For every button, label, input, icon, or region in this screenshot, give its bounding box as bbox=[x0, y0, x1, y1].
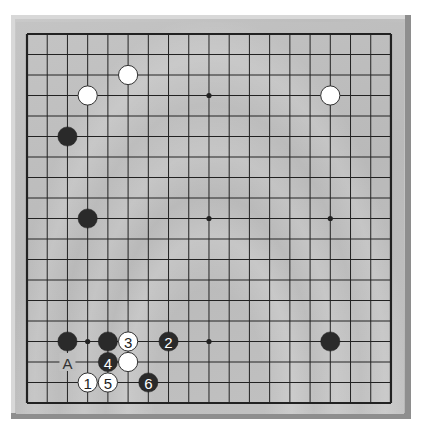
white-stone-move-3[interactable]: 3 bbox=[119, 332, 138, 351]
white-stone-move-5[interactable]: 5 bbox=[98, 373, 117, 392]
move-number-label: 3 bbox=[124, 334, 132, 351]
white-stone[interactable] bbox=[78, 86, 97, 105]
star-point bbox=[328, 216, 333, 221]
black-stone-move-6[interactable]: 6 bbox=[139, 373, 158, 392]
marker-label-a: A bbox=[62, 355, 72, 372]
black-stone[interactable] bbox=[58, 127, 77, 146]
black-stone[interactable] bbox=[98, 332, 117, 351]
white-stone-move-1[interactable]: 1 bbox=[78, 373, 97, 392]
move-number-label: 5 bbox=[104, 375, 112, 392]
white-stone[interactable] bbox=[119, 65, 138, 84]
move-number-label: 1 bbox=[83, 375, 91, 392]
go-board[interactable]: A324156 bbox=[0, 0, 423, 434]
black-stone-move-4[interactable]: 4 bbox=[98, 352, 117, 371]
white-stone[interactable] bbox=[119, 352, 138, 371]
star-point bbox=[206, 339, 211, 344]
star-point bbox=[206, 216, 211, 221]
black-stone[interactable] bbox=[78, 209, 97, 228]
white-stone[interactable] bbox=[321, 86, 340, 105]
star-point bbox=[206, 93, 211, 98]
move-number-label: 4 bbox=[104, 355, 112, 372]
black-stone[interactable] bbox=[58, 332, 77, 351]
move-number-label: 6 bbox=[144, 375, 152, 392]
star-point bbox=[85, 339, 90, 344]
move-number-label: 2 bbox=[164, 334, 172, 351]
black-stone[interactable] bbox=[321, 332, 340, 351]
black-stone-move-2[interactable]: 2 bbox=[159, 332, 178, 351]
